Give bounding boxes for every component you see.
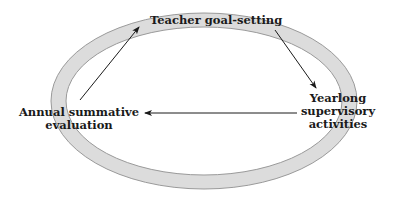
node-label: Teacher goal-setting (150, 13, 282, 27)
node-teacher-goal-setting: Teacher goal-setting (150, 14, 270, 27)
cycle-diagram: Teacher goal-setting Annual summative ev… (0, 0, 395, 199)
node-annual-summative-evaluation: Annual summative evaluation (14, 106, 144, 132)
node-yearlong-supervisory-activities: Yearlong supervisory activities (296, 92, 380, 131)
node-label-line: evaluation (14, 119, 144, 132)
node-label-line: activities (296, 118, 380, 131)
